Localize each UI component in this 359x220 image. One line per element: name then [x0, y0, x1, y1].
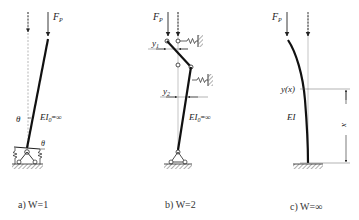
wall-hatch-top-b	[198, 35, 203, 47]
figure-c-elastic-column: FP y(x) EI x	[271, 11, 350, 169]
caption-b: b) W=2	[165, 199, 196, 210]
top-hinge-reference-b	[176, 39, 180, 43]
angle-label-a: θ	[16, 114, 21, 124]
support-node-right-b	[183, 160, 187, 164]
load-label-b: FP	[152, 11, 163, 23]
ground-hatch-a	[12, 164, 43, 169]
spring-left-a	[13, 148, 17, 164]
y1-label: y1	[151, 38, 159, 49]
support-node-left-b	[169, 160, 173, 164]
stiffness-label-b: EI0=∞	[188, 112, 211, 123]
coord-label-c: x	[340, 122, 350, 127]
support-roller-right-a	[33, 160, 37, 164]
figure-b-two-bar-column: FP y1 y2 EI0=∞	[148, 11, 213, 169]
rigid-bar-a	[27, 39, 48, 148]
deflection-label-c: y(x)	[280, 84, 295, 94]
load-label-c: FP	[271, 11, 282, 23]
spring-mid-b	[192, 78, 208, 83]
wall-hatch-mid-b	[208, 74, 213, 86]
mid-hinge-reference-b	[176, 63, 180, 67]
spring-top-b	[180, 39, 198, 44]
base-angle-label-a: θ	[41, 139, 45, 148]
y2-label: y2	[162, 86, 170, 97]
caption-c: c) W=∞	[290, 201, 322, 212]
stiffness-label-a: EI0=∞	[39, 112, 62, 123]
support-roller-left-a	[17, 160, 21, 164]
figure-a-rigid-column-rotational-spring: FP θ θ EI0=∞	[12, 11, 63, 169]
spring-right-a	[38, 149, 42, 164]
lower-bar-b	[178, 67, 191, 150]
load-label-a: FP	[52, 11, 63, 23]
deflected-column-c	[288, 40, 308, 163]
ground-hatch-c	[293, 164, 323, 169]
stiffness-label-c: EI	[286, 112, 296, 122]
ground-hatch-b	[164, 164, 192, 169]
caption-a: a) W=1	[18, 199, 48, 210]
diagram-canvas: FP θ θ EI0=∞	[0, 0, 359, 220]
